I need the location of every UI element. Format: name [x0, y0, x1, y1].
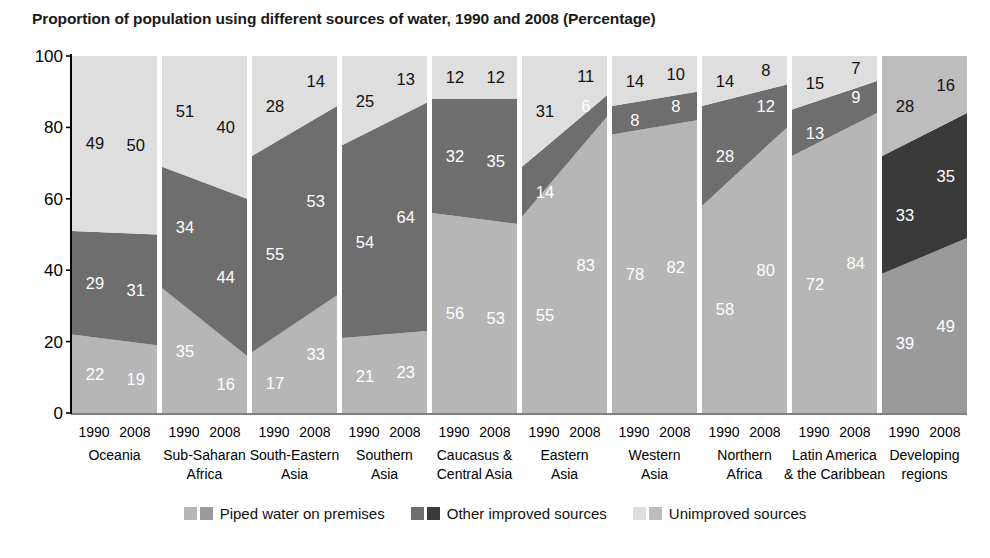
value-other-1990-3: 55 [266, 245, 284, 263]
x-region-label-7: Asia [641, 466, 668, 482]
legend-label-3: Unimproved sources [669, 505, 807, 522]
value-other-2008-5: 35 [487, 152, 505, 170]
value-piped-1990-7: 78 [626, 265, 644, 283]
x-year-1990-5: 1990 [439, 424, 470, 440]
x-year-1990-2: 1990 [169, 424, 200, 440]
chart-plot-area: 2219293149503516344451401733555328142123… [0, 0, 990, 505]
value-unimproved-1990-2: 51 [176, 102, 194, 120]
x-region-label-6: Asia [551, 466, 578, 482]
value-other-1990-10: 33 [896, 206, 914, 224]
x-year-1990-8: 1990 [709, 424, 740, 440]
value-other-2008-4: 64 [397, 208, 415, 226]
value-other-2008-8: 12 [757, 97, 775, 115]
x-year-1990-10: 1990 [889, 424, 920, 440]
x-year-1990-6: 1990 [529, 424, 560, 440]
x-year-2008-7: 2008 [659, 424, 690, 440]
legend-swatch-dark-2 [427, 507, 440, 520]
value-other-2008-6: 6 [581, 97, 590, 115]
legend-item-1[interactable]: Piped water on premises [184, 505, 385, 522]
y-tick-80: 80 [44, 118, 63, 137]
value-piped-2008-8: 80 [757, 261, 775, 279]
value-piped-1990-4: 21 [356, 367, 374, 385]
value-unimproved-2008-2: 40 [217, 118, 235, 136]
value-other-2008-9: 9 [851, 88, 860, 106]
value-piped-1990-3: 17 [266, 374, 284, 392]
x-region-label-2: Sub-Saharan [163, 447, 246, 463]
value-piped-1990-1: 22 [86, 365, 104, 383]
value-unimproved-2008-10: 16 [937, 76, 955, 94]
y-tick-60: 60 [44, 190, 63, 209]
value-unimproved-1990-4: 25 [356, 92, 374, 110]
legend-swatch-light-1 [184, 507, 197, 520]
legend-item-3[interactable]: Unimproved sources [633, 505, 807, 522]
x-year-2008-5: 2008 [479, 424, 510, 440]
y-tick-20: 20 [44, 333, 63, 352]
legend-label-2: Other improved sources [447, 505, 607, 522]
x-year-2008-3: 2008 [299, 424, 330, 440]
value-other-1990-7: 8 [630, 111, 639, 129]
legend-swatch-light-2 [411, 507, 424, 520]
value-piped-2008-9: 84 [847, 254, 865, 272]
value-other-1990-9: 13 [806, 124, 824, 142]
x-year-2008-4: 2008 [389, 424, 420, 440]
value-unimproved-1990-9: 15 [806, 74, 824, 92]
x-region-label-7: Western [629, 447, 681, 463]
value-piped-2008-7: 82 [667, 258, 685, 276]
value-unimproved-1990-6: 31 [536, 102, 554, 120]
value-unimproved-1990-7: 14 [626, 72, 644, 90]
value-unimproved-2008-9: 7 [851, 59, 860, 77]
value-piped-1990-10: 39 [896, 334, 914, 352]
legend-label-1: Piped water on premises [220, 505, 385, 522]
x-year-2008-2: 2008 [209, 424, 240, 440]
legend-swatch-dark-3 [649, 507, 662, 520]
x-year-1990-7: 1990 [619, 424, 650, 440]
legend-swatch-pair-1 [184, 507, 213, 520]
value-unimproved-2008-5: 12 [487, 68, 505, 86]
chart-container: Proportion of population using different… [0, 0, 990, 558]
x-year-2008-9: 2008 [839, 424, 870, 440]
value-other-2008-3: 53 [307, 192, 325, 210]
value-unimproved-1990-1: 49 [86, 134, 104, 152]
value-unimproved-2008-7: 10 [667, 65, 685, 83]
x-region-label-5: Central Asia [437, 466, 513, 482]
value-unimproved-1990-5: 12 [446, 68, 464, 86]
x-year-2008-6: 2008 [569, 424, 600, 440]
x-region-label-5: Caucasus & [437, 447, 513, 463]
value-unimproved-2008-3: 14 [307, 72, 325, 90]
value-other-1990-5: 32 [446, 147, 464, 165]
y-tick-40: 40 [44, 261, 63, 280]
value-piped-1990-8: 58 [716, 300, 734, 318]
legend-swatch-dark-1 [200, 507, 213, 520]
value-piped-2008-6: 83 [577, 256, 595, 274]
x-year-1990-3: 1990 [259, 424, 290, 440]
x-region-label-3: South-Eastern [250, 447, 340, 463]
bands-layer [72, 56, 967, 413]
chart-legend: Piped water on premisesOther improved so… [0, 505, 990, 522]
x-region-label-6: Eastern [540, 447, 588, 463]
x-axis: 19902008Oceania19902008Sub-SaharanAfrica… [79, 424, 961, 482]
value-piped-2008-1: 19 [127, 370, 145, 388]
value-unimproved-2008-6: 11 [577, 67, 594, 85]
x-region-label-4: Asia [371, 466, 398, 482]
y-tick-100: 100 [35, 47, 63, 66]
x-region-label-1: Oceania [88, 447, 140, 463]
value-unimproved-2008-4: 13 [397, 70, 415, 88]
value-other-1990-8: 28 [716, 147, 734, 165]
x-region-label-10: regions [902, 466, 948, 482]
x-year-1990-9: 1990 [799, 424, 830, 440]
value-other-2008-1: 31 [127, 281, 145, 299]
x-region-label-8: Africa [727, 466, 763, 482]
legend-swatch-light-3 [633, 507, 646, 520]
x-region-label-9: Latin America [792, 447, 877, 463]
value-piped-1990-6: 55 [536, 306, 554, 324]
value-piped-2008-2: 16 [217, 375, 235, 393]
value-piped-2008-3: 33 [307, 345, 325, 363]
x-region-label-2: Africa [187, 466, 223, 482]
value-other-1990-1: 29 [86, 274, 104, 292]
value-unimproved-1990-10: 28 [896, 97, 914, 115]
x-year-2008-1: 2008 [119, 424, 150, 440]
legend-item-2[interactable]: Other improved sources [411, 505, 607, 522]
value-other-2008-2: 44 [217, 268, 235, 286]
value-unimproved-1990-8: 14 [716, 72, 734, 90]
value-piped-2008-5: 53 [487, 309, 505, 327]
